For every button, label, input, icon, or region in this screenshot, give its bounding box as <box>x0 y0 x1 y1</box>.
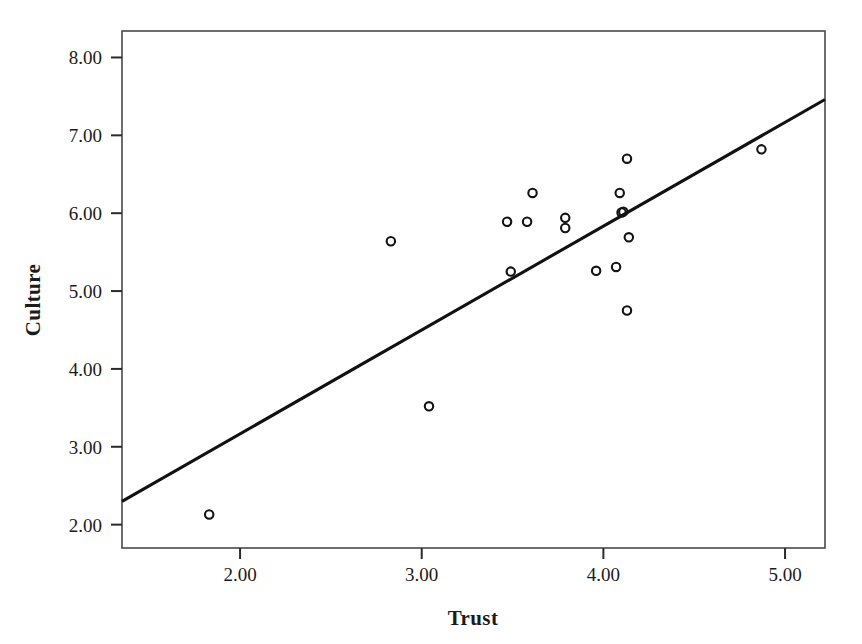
x-tick-label: 3.00 <box>405 564 438 585</box>
y-axis-title: Culture <box>21 264 45 336</box>
y-tick-label: 2.00 <box>69 515 102 536</box>
x-axis-title: Trust <box>448 606 499 630</box>
x-tick-label: 5.00 <box>768 564 801 585</box>
y-tick-label: 8.00 <box>69 47 102 68</box>
x-tick-label: 4.00 <box>587 564 620 585</box>
x-tick-label: 2.00 <box>223 564 256 585</box>
y-tick-label: 4.00 <box>69 359 102 380</box>
y-tick-label: 7.00 <box>69 125 102 146</box>
y-tick-label: 3.00 <box>69 437 102 458</box>
y-tick-label: 5.00 <box>69 281 102 302</box>
y-tick-label: 6.00 <box>69 203 102 224</box>
scatter-plot-figure: 2.003.004.005.006.007.008.00 2.003.004.0… <box>0 0 862 644</box>
